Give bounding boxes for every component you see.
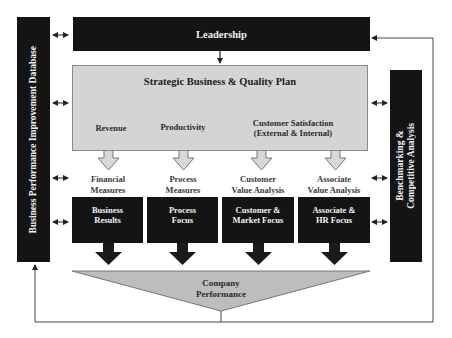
- leadership-label: Leadership: [196, 29, 247, 40]
- strategic-plan-title: Strategic Business & Quality Plan: [73, 76, 367, 87]
- customer-satisfaction-line2: (External & Internal): [254, 128, 332, 138]
- benchmarking-label-line2: Competitive Analysis: [406, 123, 416, 209]
- business-results-line2: Results: [94, 215, 120, 225]
- solid-down-arrows: [95, 243, 348, 265]
- business-performance-database-label: Business Performance Improvement Databas…: [28, 46, 39, 233]
- measure-customer-value-line1: Customer: [240, 174, 276, 184]
- business-performance-database-box: Business Performance Improvement Databas…: [17, 17, 50, 262]
- company-performance-line2: Performance: [196, 289, 246, 299]
- measure-customer-value-line2: Value Analysis: [232, 185, 285, 195]
- measure-financial-line2: Measures: [91, 185, 126, 195]
- measure-associate-value: Associate Value Analysis: [294, 174, 374, 196]
- measure-process-line2: Measures: [166, 185, 201, 195]
- process-focus-line1: Process: [169, 205, 196, 215]
- measure-process: Process Measures: [143, 174, 223, 196]
- plan-item-revenue: Revenue: [81, 123, 141, 133]
- measure-process-line1: Process: [169, 174, 196, 184]
- measure-associate-value-line2: Value Analysis: [308, 185, 361, 195]
- associate-hr-line1: Associate &: [312, 205, 355, 215]
- focus-box-business-results: Business Results: [72, 197, 143, 243]
- plan-item-customer-satisfaction: Customer Satisfaction (External & Intern…: [228, 118, 358, 138]
- benchmarking-label-line1: Benchmarking &: [395, 131, 405, 201]
- right-double-arrows: [372, 103, 387, 222]
- left-double-arrows: [53, 35, 68, 222]
- customer-market-line1: Customer &: [236, 205, 281, 215]
- focus-box-customer-market: Customer & Market Focus: [222, 197, 294, 243]
- focus-box-process: Process Focus: [147, 197, 218, 243]
- business-results-line1: Business: [92, 205, 123, 215]
- associate-hr-line2: HR Focus: [316, 215, 352, 225]
- measure-associate-value-line1: Associate: [317, 174, 351, 184]
- benchmarking-box: Benchmarking & Competitive Analysis: [390, 70, 422, 262]
- measure-financial: Financial Measures: [68, 174, 148, 196]
- customer-market-line2: Market Focus: [233, 215, 284, 225]
- benchmarking-label: Benchmarking & Competitive Analysis: [395, 123, 417, 209]
- plan-item-productivity: Productivity: [153, 122, 213, 132]
- hollow-down-arrows: [98, 150, 346, 170]
- customer-satisfaction-line1: Customer Satisfaction: [253, 118, 333, 128]
- company-performance-line1: Company: [202, 278, 240, 288]
- company-performance-label: Company Performance: [171, 278, 271, 300]
- strategic-plan-box: Strategic Business & Quality Plan Revenu…: [72, 65, 368, 151]
- process-focus-line2: Focus: [172, 215, 193, 225]
- measure-financial-line1: Financial: [91, 174, 125, 184]
- focus-box-associate-hr: Associate & HR Focus: [298, 197, 370, 243]
- measure-customer-value: Customer Value Analysis: [218, 174, 298, 196]
- leadership-box: Leadership: [73, 17, 370, 51]
